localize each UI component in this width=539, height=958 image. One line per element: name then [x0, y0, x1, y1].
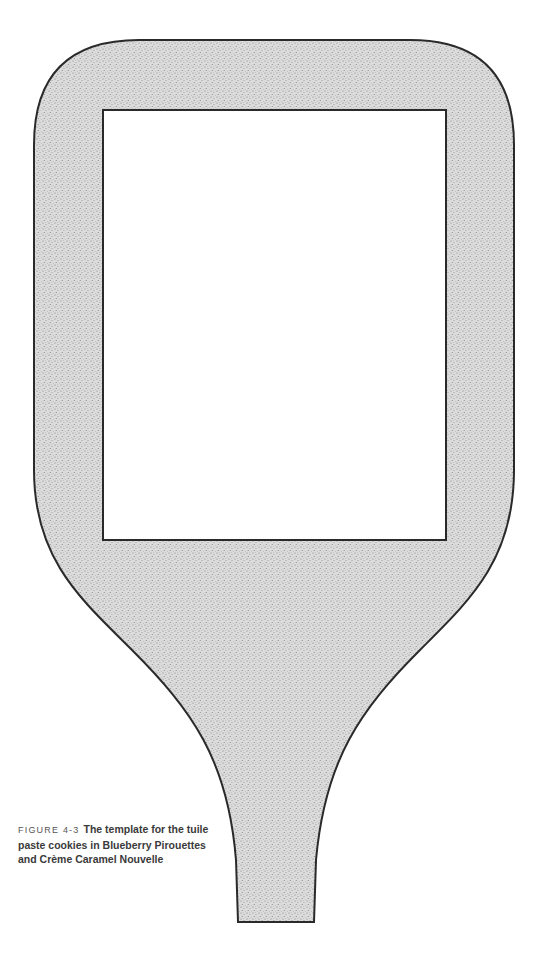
tuile-template-diagram [0, 0, 539, 958]
inner-cutout [103, 110, 446, 540]
caption-line-1: The template for the tuile [84, 823, 209, 835]
figure-label: FIGURE 4-3 [18, 825, 80, 835]
figure-caption: FIGURE 4-3The template for the tuile pas… [18, 822, 258, 867]
caption-line-3: and Crème Caramel Nouvelle [18, 853, 163, 865]
caption-line-2: paste cookies in Blueberry Pirouettes [18, 839, 206, 851]
